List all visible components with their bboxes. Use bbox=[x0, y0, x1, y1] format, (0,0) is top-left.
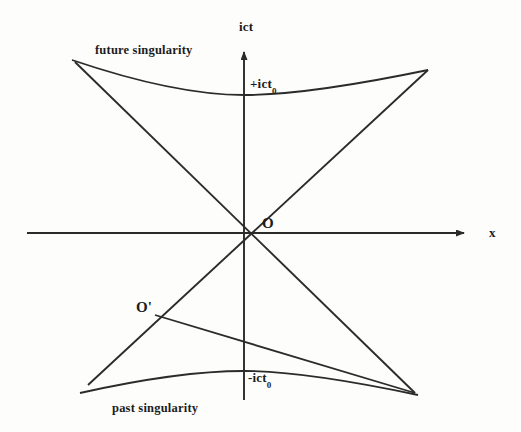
axes-group bbox=[27, 52, 464, 400]
positive-ict0-subscript: 0 bbox=[272, 86, 277, 96]
light-cone-line-negative-slope bbox=[75, 62, 415, 393]
spacetime-diagram-figure: ict x O O' future singularity past singu… bbox=[0, 0, 521, 432]
positive-ict0-base: +ict bbox=[250, 76, 272, 91]
positive-ict0-tick-label: +ict0 bbox=[250, 77, 277, 94]
past-singularity-label: past singularity bbox=[112, 402, 198, 415]
negative-ict0-base: -ict bbox=[248, 370, 267, 385]
future-singularity-label: future singularity bbox=[95, 44, 192, 57]
light-cone-line-positive-slope bbox=[88, 70, 428, 385]
origin-label-O: O bbox=[262, 216, 274, 231]
negative-ict0-tick-label: -ict0 bbox=[248, 371, 272, 388]
axis-label-ict: ict bbox=[239, 20, 253, 33]
negative-ict0-subscript: 0 bbox=[267, 380, 272, 390]
axis-label-x: x bbox=[489, 226, 496, 239]
shifted-origin-label-O-prime: O' bbox=[136, 300, 152, 315]
diagram-canvas bbox=[0, 0, 521, 432]
